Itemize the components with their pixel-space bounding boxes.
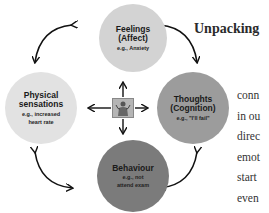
paragraph-line: start — [237, 167, 260, 188]
arrow-physical-behaviour — [35, 152, 72, 188]
node-physical-sensations: Physical sensations e.g., increased hear… — [5, 72, 77, 144]
body-paragraph: conn in ou direc emot start even — [237, 85, 260, 208]
person-body-icon — [112, 98, 134, 118]
paragraph-line: direc — [237, 126, 260, 147]
paragraph-line: conn — [237, 85, 260, 106]
node-feelings-example: e.g., Anxiety — [117, 45, 149, 52]
arrow-feelings-physical — [35, 25, 72, 62]
node-behaviour-title: Behaviour — [112, 164, 154, 174]
node-thoughts-title-2: (Cognition) — [170, 104, 215, 114]
node-behaviour-example-1: e.g., not — [122, 174, 143, 181]
node-behaviour: Behaviour e.g., not attend exam — [97, 140, 169, 212]
node-physical-example-2: heart rate — [28, 119, 53, 126]
node-physical-example-1: e.g., increased — [22, 111, 60, 118]
node-behaviour-example-2: attend exam — [117, 182, 149, 189]
node-thoughts-example: e.g., "I'll fail" — [176, 115, 209, 122]
section-heading: Unpacking — [194, 21, 259, 37]
node-feelings: Feelings (Affect) e.g., Anxiety — [99, 4, 167, 72]
paragraph-line: in ou — [237, 106, 260, 127]
node-thoughts: Thoughts (Cognition) e.g., "I'll fail" — [157, 72, 229, 144]
node-physical-title-2: sensations — [19, 100, 63, 110]
node-feelings-title-2: (Affect) — [118, 34, 148, 44]
paragraph-line: even — [237, 188, 260, 209]
paragraph-line: emot — [237, 147, 260, 168]
